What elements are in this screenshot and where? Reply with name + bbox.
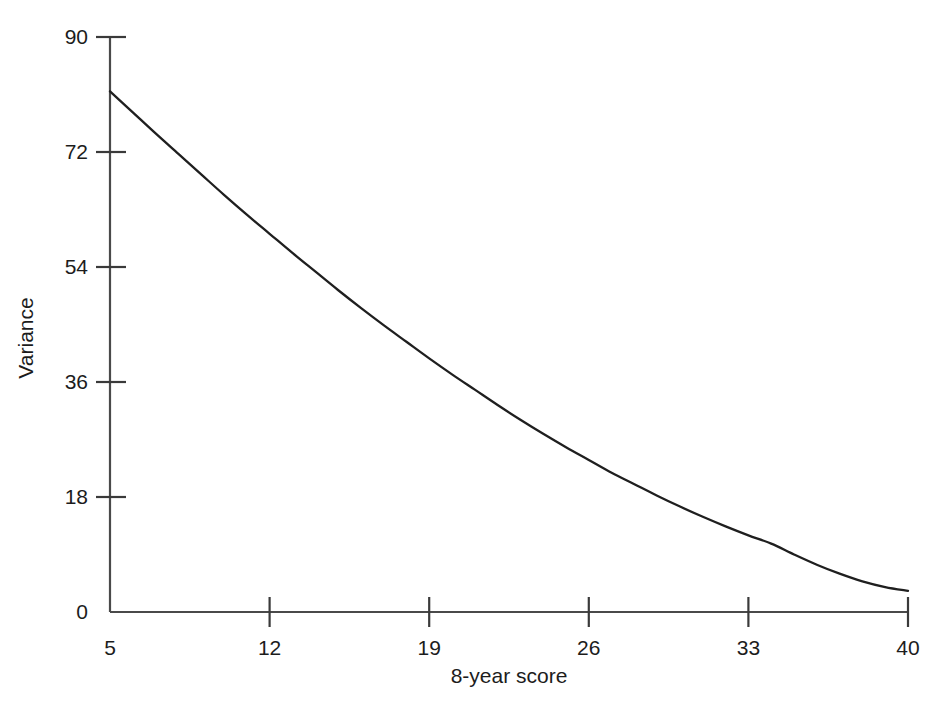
x-axis-title: 8-year score xyxy=(451,664,568,687)
x-axis-tick-labels: 51219263340 xyxy=(104,636,920,659)
curve-print-artifact xyxy=(193,182,199,186)
variance-decay-curve xyxy=(110,91,908,591)
x-tick-label: 12 xyxy=(258,636,281,659)
x-tick-label: 5 xyxy=(104,636,116,659)
y-axis-tick-labels: 01836547290 xyxy=(65,25,89,623)
y-axis: 01836547290 xyxy=(65,25,126,623)
x-axis: 51219263340 xyxy=(104,597,920,659)
y-axis-title: Variance xyxy=(14,297,37,378)
y-tick-label: 54 xyxy=(65,255,89,278)
x-tick-label: 26 xyxy=(577,636,600,659)
y-tick-label: 0 xyxy=(76,600,88,623)
x-tick-label: 33 xyxy=(737,636,760,659)
y-tick-label: 36 xyxy=(65,370,88,393)
x-tick-label: 40 xyxy=(896,636,919,659)
plot-area xyxy=(110,91,908,591)
x-tick-label: 19 xyxy=(418,636,441,659)
chart-canvas: 01836547290 51219263340 8-year score Var… xyxy=(0,0,942,708)
y-tick-label: 72 xyxy=(65,140,88,163)
y-tick-label: 18 xyxy=(65,485,88,508)
chart-figure: 01836547290 51219263340 8-year score Var… xyxy=(0,0,942,708)
y-tick-label: 90 xyxy=(65,25,88,48)
